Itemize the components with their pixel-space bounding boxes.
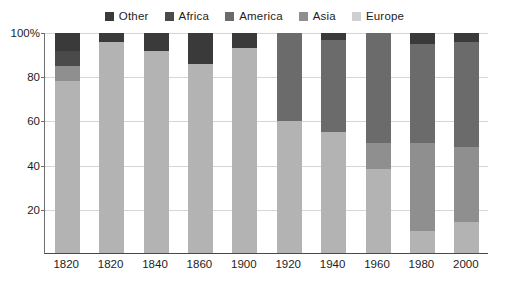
bar-stack	[321, 33, 346, 253]
bar-segment-europe[interactable]	[366, 169, 391, 253]
bar-segment-other[interactable]	[188, 33, 213, 64]
bar-column[interactable]	[366, 33, 391, 253]
bar-stack	[277, 33, 302, 253]
bar-segment-europe[interactable]	[55, 81, 80, 253]
bar-segment-europe[interactable]	[321, 132, 346, 253]
bar-stack	[366, 33, 391, 253]
bar-segment-europe[interactable]	[99, 42, 124, 253]
x-axis-tick-label: 1840	[142, 258, 168, 270]
bar-column[interactable]	[188, 33, 213, 253]
legend-item: Other	[105, 11, 149, 22]
bar-column[interactable]	[144, 33, 169, 253]
x-axis-labels: 1820182018401860190019201940196019802000	[44, 258, 488, 280]
y-axis-tick-label: 100%	[11, 27, 40, 39]
bar-segment-europe[interactable]	[232, 48, 257, 253]
bar-stack	[99, 33, 124, 253]
x-axis-tick-label: 1820	[53, 258, 79, 270]
y-axis-tick-label: 60	[27, 115, 40, 127]
bar-segment-asia[interactable]	[55, 66, 80, 81]
y-axis-labels: 20406080100%	[0, 33, 40, 254]
bar-stack	[454, 33, 479, 253]
bar-segment-europe[interactable]	[277, 121, 302, 253]
legend-item: Africa	[165, 11, 210, 22]
legend-label: Asia	[313, 11, 336, 22]
bar-segment-europe[interactable]	[410, 231, 435, 253]
chart-page: OtherAfricaAmericaAsiaEurope 20406080100…	[0, 0, 509, 290]
bar-series-group	[45, 33, 488, 253]
legend-label: America	[239, 11, 283, 22]
bar-stack	[188, 33, 213, 253]
y-axis-tick-label: 20	[27, 204, 40, 216]
bar-segment-other[interactable]	[454, 33, 479, 42]
chart-legend: OtherAfricaAmericaAsiaEurope	[0, 11, 509, 22]
legend-item: Europe	[352, 11, 404, 22]
bar-stack	[410, 33, 435, 253]
legend-swatch-icon	[352, 12, 361, 21]
bar-column[interactable]	[277, 33, 302, 253]
bar-segment-other[interactable]	[232, 33, 257, 48]
x-axis-tick-label: 1900	[231, 258, 257, 270]
legend-label: Europe	[366, 11, 404, 22]
legend-label: Other	[119, 11, 149, 22]
legend-item: Asia	[299, 11, 336, 22]
x-axis-tick-label: 1920	[275, 258, 301, 270]
bar-segment-other[interactable]	[321, 33, 346, 40]
bar-segment-asia[interactable]	[366, 143, 391, 169]
bar-column[interactable]	[99, 33, 124, 253]
legend-swatch-icon	[299, 12, 308, 21]
bar-segment-europe[interactable]	[454, 222, 479, 253]
x-axis-tick-label: 1820	[98, 258, 124, 270]
bar-segment-europe[interactable]	[144, 51, 169, 253]
x-axis-tick-label: 2000	[453, 258, 479, 270]
bar-segment-america[interactable]	[277, 33, 302, 121]
bar-stack	[55, 33, 80, 253]
bar-segment-other[interactable]	[99, 33, 124, 42]
legend-swatch-icon	[225, 12, 234, 21]
x-axis-tick-label: 1980	[409, 258, 435, 270]
bar-column[interactable]	[232, 33, 257, 253]
y-axis-tick-label: 40	[27, 160, 40, 172]
bar-column[interactable]	[321, 33, 346, 253]
bar-segment-america[interactable]	[366, 33, 391, 143]
x-axis-tick-label: 1960	[364, 258, 390, 270]
bar-column[interactable]	[55, 33, 80, 253]
bar-segment-africa[interactable]	[55, 51, 80, 66]
bar-segment-other[interactable]	[144, 33, 169, 51]
bar-segment-other[interactable]	[410, 33, 435, 44]
legend-swatch-icon	[105, 12, 114, 21]
bar-segment-europe[interactable]	[188, 64, 213, 253]
legend-label: Africa	[179, 11, 210, 22]
bar-segment-america[interactable]	[454, 42, 479, 148]
y-axis-tick-label: 80	[27, 71, 40, 83]
bar-segment-asia[interactable]	[454, 147, 479, 222]
plot-area	[44, 33, 488, 254]
legend-swatch-icon	[165, 12, 174, 21]
bar-column[interactable]	[454, 33, 479, 253]
x-axis-tick-label: 1940	[320, 258, 346, 270]
bar-column[interactable]	[410, 33, 435, 253]
x-axis-tick-label: 1860	[187, 258, 213, 270]
bar-segment-america[interactable]	[410, 44, 435, 143]
bar-stack	[232, 33, 257, 253]
bar-stack	[144, 33, 169, 253]
bar-segment-asia[interactable]	[410, 143, 435, 231]
bar-segment-other[interactable]	[55, 33, 80, 51]
bar-segment-america[interactable]	[321, 40, 346, 132]
legend-item: America	[225, 11, 283, 22]
